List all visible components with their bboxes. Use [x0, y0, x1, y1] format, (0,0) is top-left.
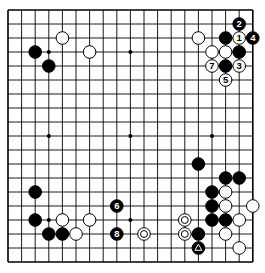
- star-point: [128, 134, 132, 138]
- stone-disc: [179, 214, 192, 227]
- move-number: 2: [237, 18, 242, 29]
- move-number: 1: [237, 32, 243, 43]
- black-stone[interactable]: 8: [111, 228, 124, 241]
- stone-disc: [219, 228, 232, 241]
- stone-disc: [219, 186, 232, 199]
- stone-disc: [219, 172, 232, 185]
- stone-disc: [233, 172, 246, 185]
- stone-disc: [56, 32, 69, 45]
- move-number: 5: [223, 74, 229, 85]
- star-point: [210, 134, 214, 138]
- white-stone[interactable]: [83, 214, 96, 227]
- stone-disc: [29, 186, 42, 199]
- white-stone[interactable]: 7: [206, 60, 219, 73]
- black-stone[interactable]: [192, 158, 205, 171]
- stone-disc: [233, 46, 246, 59]
- stone-disc: [219, 32, 232, 45]
- black-stone[interactable]: [219, 60, 232, 73]
- white-stone[interactable]: [56, 214, 69, 227]
- white-stone[interactable]: [83, 46, 96, 59]
- stone-disc: [179, 228, 192, 241]
- stone-disc: [70, 228, 83, 241]
- stone-disc: [247, 200, 260, 213]
- star-point: [128, 50, 132, 54]
- stone-disc: [206, 186, 219, 199]
- white-stone[interactable]: [179, 214, 192, 227]
- stone-disc: [83, 214, 96, 227]
- black-stone[interactable]: [206, 186, 219, 199]
- stone-disc: [43, 60, 56, 73]
- black-stone[interactable]: [206, 200, 219, 213]
- black-stone[interactable]: [219, 172, 232, 185]
- black-stone[interactable]: [192, 228, 205, 241]
- move-number: 8: [114, 228, 119, 239]
- star-point: [47, 50, 51, 54]
- white-stone[interactable]: [138, 228, 151, 241]
- move-number: 7: [209, 60, 214, 71]
- white-stone[interactable]: 3: [233, 60, 246, 73]
- star-point: [47, 134, 51, 138]
- stone-disc: [233, 242, 246, 255]
- white-stone[interactable]: [70, 228, 83, 241]
- stone-disc: [219, 200, 232, 213]
- white-stone[interactable]: [206, 46, 219, 59]
- move-number: 3: [237, 60, 242, 71]
- stone-disc: [192, 158, 205, 171]
- white-stone[interactable]: [233, 214, 246, 227]
- move-number: 4: [250, 32, 256, 43]
- white-stone[interactable]: [219, 228, 232, 241]
- stone-disc: [83, 46, 96, 59]
- stone-disc: [43, 228, 56, 241]
- black-stone[interactable]: 6: [111, 200, 124, 213]
- black-stone[interactable]: [29, 186, 42, 199]
- go-board: 14273568: [0, 0, 265, 273]
- black-stone[interactable]: 2: [233, 18, 246, 31]
- white-stone[interactable]: 5: [219, 74, 232, 87]
- white-stone[interactable]: [56, 32, 69, 45]
- stone-disc: [219, 214, 232, 227]
- stone-disc: [138, 228, 151, 241]
- black-stone[interactable]: [43, 228, 56, 241]
- white-stone[interactable]: 1: [233, 32, 246, 45]
- black-stone[interactable]: [233, 172, 246, 185]
- move-number: 6: [114, 200, 119, 211]
- white-stone[interactable]: [179, 228, 192, 241]
- stone-disc: [206, 46, 219, 59]
- stone-disc: [29, 214, 42, 227]
- black-stone[interactable]: [29, 46, 42, 59]
- black-stone[interactable]: [219, 214, 232, 227]
- stone-disc: [219, 60, 232, 73]
- white-stone[interactable]: [219, 186, 232, 199]
- black-stone[interactable]: [43, 60, 56, 73]
- star-point: [128, 218, 132, 222]
- white-stone[interactable]: [219, 200, 232, 213]
- stone-disc: [192, 228, 205, 241]
- black-stone[interactable]: [29, 214, 42, 227]
- stone-disc: [233, 214, 246, 227]
- black-stone[interactable]: [233, 46, 246, 59]
- stone-disc: [206, 200, 219, 213]
- black-stone[interactable]: 4: [247, 32, 260, 45]
- white-stone[interactable]: [233, 242, 246, 255]
- white-stone[interactable]: [219, 46, 232, 59]
- stone-disc: [206, 214, 219, 227]
- stone-disc: [29, 46, 42, 59]
- white-stone[interactable]: [192, 32, 205, 45]
- stone-disc: [56, 214, 69, 227]
- stone-disc: [192, 32, 205, 45]
- stone-disc: [56, 228, 69, 241]
- black-stone[interactable]: [206, 214, 219, 227]
- black-stone[interactable]: [56, 228, 69, 241]
- star-point: [47, 218, 51, 222]
- black-stone[interactable]: [219, 32, 232, 45]
- black-stone[interactable]: [192, 242, 205, 255]
- white-stone[interactable]: [247, 200, 260, 213]
- stone-disc: [219, 46, 232, 59]
